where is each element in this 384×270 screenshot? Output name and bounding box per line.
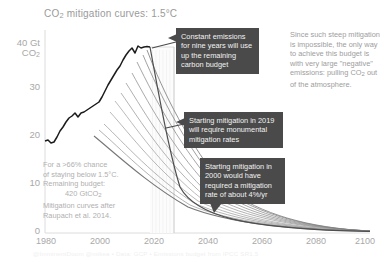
inchart-note-line5: Mitigation curves after <box>43 201 115 210</box>
footer-credit: @ImminentDoom @mikea • Data: GCP • Emiss… <box>33 250 259 257</box>
xtick-2020: 2020 <box>139 236 169 246</box>
xtick-2100: 2100 <box>350 236 380 246</box>
xtick-2080: 2080 <box>301 236 331 246</box>
callout-tail-mitigation-2000 <box>210 203 222 213</box>
historical-emissions-curve <box>45 46 150 143</box>
side-note: Since such steep mitigation is impossibl… <box>290 30 382 90</box>
xtick-2000: 2000 <box>85 236 115 246</box>
inchart-note-line6: Raupach et al. 2014. <box>43 211 111 220</box>
callout-mitigation-2019: Starting mitigation in 2019 will require… <box>184 112 283 148</box>
inchart-note-line3: Remaining budget: <box>43 179 105 188</box>
inchart-note-line1: For a >66% chance <box>43 160 107 169</box>
inchart-note: For a >66% chance of staying below 1.5°C… <box>43 160 155 220</box>
chart-page: CO2 mitigation curves: 1.5°C 40 Gt CO2 3… <box>0 0 384 270</box>
xtick-1980: 1980 <box>31 236 61 246</box>
inchart-note-budget: 420 GtCO2 <box>43 189 155 201</box>
callout-mitigation-2000: Starting mitigation in 2000 would have r… <box>200 158 285 204</box>
callout-constant-emissions: Constant emissions for nine years will u… <box>176 28 259 74</box>
xtick-2060: 2060 <box>247 236 277 246</box>
inchart-note-budget-value: 420 GtCO <box>65 189 98 198</box>
inchart-note-line2: of staying below 1.5°C. <box>43 170 119 179</box>
xtick-2040: 2040 <box>193 236 223 246</box>
callout-tail-constant-emissions <box>168 34 177 42</box>
inchart-note-budget-sub: 2 <box>98 192 101 198</box>
callout-tail-mitigation-2019 <box>176 118 185 126</box>
